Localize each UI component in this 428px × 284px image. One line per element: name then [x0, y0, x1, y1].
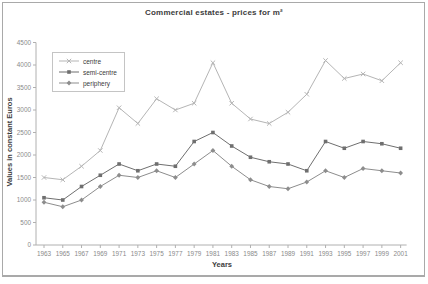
svg-text:1997: 1997 — [356, 250, 371, 257]
svg-text:1995: 1995 — [337, 250, 352, 257]
svg-text:1981: 1981 — [206, 250, 221, 257]
svg-text:4500: 4500 — [17, 39, 32, 46]
x-axis-title: Years — [36, 260, 408, 269]
svg-text:4000: 4000 — [17, 61, 32, 68]
svg-text:1973: 1973 — [131, 250, 146, 257]
y-tick-labels: 050010001500200025003000350040004500 — [17, 39, 36, 249]
svg-text:0: 0 — [27, 241, 31, 248]
periphery-line-marker-icon — [58, 79, 80, 87]
legend-item-periphery: periphery — [58, 78, 117, 88]
svg-text:1991: 1991 — [300, 250, 315, 257]
svg-text:1975: 1975 — [150, 250, 165, 257]
svg-text:1987: 1987 — [262, 250, 277, 257]
legend: centre semi-centre periphery — [52, 52, 125, 92]
svg-text:1977: 1977 — [168, 250, 183, 257]
series-semi-centre — [42, 131, 402, 202]
svg-text:1965: 1965 — [56, 250, 71, 257]
svg-text:3500: 3500 — [17, 84, 32, 91]
legend-label: centre — [83, 58, 101, 65]
series-periphery — [42, 148, 403, 209]
svg-text:1969: 1969 — [93, 250, 108, 257]
svg-text:1000: 1000 — [17, 196, 32, 203]
x-tick-labels: 1963196519671969197119731975197719791981… — [37, 245, 408, 257]
svg-text:2001: 2001 — [394, 250, 409, 257]
svg-text:1500: 1500 — [17, 174, 32, 181]
svg-text:1963: 1963 — [37, 250, 52, 257]
svg-text:500: 500 — [20, 219, 31, 226]
svg-text:2500: 2500 — [17, 129, 32, 136]
semi-centre-line-marker-icon — [58, 68, 80, 76]
svg-text:2000: 2000 — [17, 151, 32, 158]
svg-text:1983: 1983 — [225, 250, 240, 257]
centre-line-marker-icon — [58, 57, 80, 65]
svg-text:1993: 1993 — [318, 250, 333, 257]
chart-title: Commercial estates - prices for m² — [0, 8, 428, 17]
svg-text:1967: 1967 — [74, 250, 89, 257]
chart-image: 0500100015002000250030003500400045001963… — [0, 0, 428, 284]
legend-item-semi-centre: semi-centre — [58, 67, 117, 77]
plot-area: 0500100015002000250030003500400045001963… — [0, 0, 428, 284]
svg-text:1999: 1999 — [375, 250, 390, 257]
svg-text:1979: 1979 — [187, 250, 202, 257]
legend-label: periphery — [83, 80, 110, 87]
svg-text:3000: 3000 — [17, 106, 32, 113]
svg-text:1971: 1971 — [112, 250, 127, 257]
legend-label: semi-centre — [83, 69, 117, 76]
svg-text:1985: 1985 — [243, 250, 258, 257]
svg-text:1989: 1989 — [281, 250, 296, 257]
y-axis-title: Values in constant Euros — [5, 97, 14, 186]
legend-item-centre: centre — [58, 56, 117, 66]
